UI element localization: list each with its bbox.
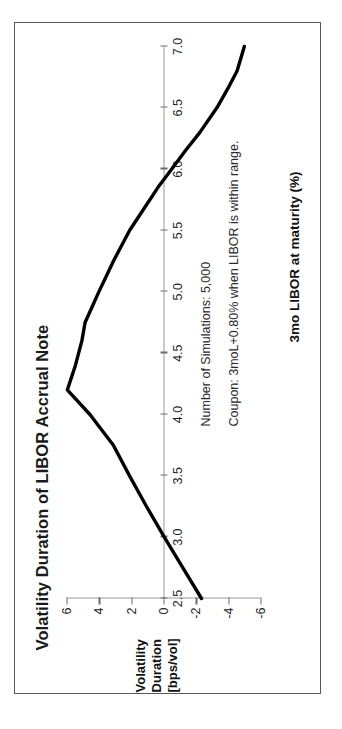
annotation-simulations: Number of Simulations: 5,000	[198, 261, 212, 426]
annotation-coupon: Coupon: 3moL+0.80% when LIBOR is within …	[226, 140, 240, 426]
y-tick-label: -6	[253, 607, 267, 618]
y-axis-title-line-2: Duration	[148, 638, 164, 692]
page-frame: Volatility Duration of LIBOR Accrual Not…	[14, 22, 321, 694]
y-tick-label: -4	[221, 607, 235, 618]
y-tick-label: 0	[156, 607, 170, 614]
rotated-chart-wrapper: Volatility Duration of LIBOR Accrual Not…	[14, 22, 321, 694]
y-axis-title-line-1: Volatility	[132, 638, 148, 692]
y-tick-label: -2	[188, 607, 202, 618]
chart-area: Volatility Duration of LIBOR Accrual Not…	[14, 22, 321, 694]
y-tick-label: 6	[59, 607, 73, 614]
y-axis-title: Volatility Duration [bps/vol]	[132, 638, 180, 692]
y-tick-label: 2	[124, 607, 138, 614]
y-axis-title-line-3: [bps/vol]	[164, 638, 180, 692]
y-tick-label: 4	[91, 607, 105, 614]
chart-title: Volatility Duration of LIBOR Accrual Not…	[32, 324, 51, 650]
x-axis-title: 3mo LIBOR at maturity (%)	[286, 171, 301, 342]
